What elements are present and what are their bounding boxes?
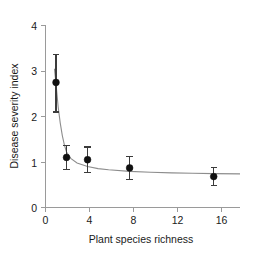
data-point-marker xyxy=(84,156,91,163)
x-tick-label-12: 12 xyxy=(172,214,184,226)
y-tick-label-4: 4 xyxy=(31,20,37,32)
data-point-marker xyxy=(53,79,60,86)
y-tick-label-0: 0 xyxy=(31,202,37,214)
data-point-group xyxy=(53,54,60,112)
x-axis-tick-labels: 0 4 8 12 16 xyxy=(43,214,228,226)
x-tick-label-8: 8 xyxy=(131,214,137,226)
data-point-group xyxy=(63,145,70,170)
x-axis-ticks xyxy=(46,208,222,213)
x-tick-label-16: 16 xyxy=(216,214,228,226)
y-axis-title: Disease severity index xyxy=(8,63,20,169)
y-tick-label-1: 1 xyxy=(31,157,37,169)
chart-figure: 0 1 2 3 4 0 4 8 12 16 Plant species rich… xyxy=(0,0,256,263)
x-tick-label-0: 0 xyxy=(43,214,49,226)
data-point-marker xyxy=(63,154,70,161)
y-tick-label-3: 3 xyxy=(31,65,37,77)
scatter-plot: 0 1 2 3 4 0 4 8 12 16 Plant species rich… xyxy=(0,0,256,263)
y-tick-label-2: 2 xyxy=(31,111,37,123)
data-point-marker xyxy=(126,165,133,172)
data-point-group xyxy=(126,157,133,180)
data-point-group xyxy=(210,167,217,185)
y-axis-ticks xyxy=(41,26,46,208)
data-points-layer xyxy=(53,54,218,185)
data-point-marker xyxy=(210,173,217,180)
x-tick-label-4: 4 xyxy=(87,214,93,226)
fitted-decay-curve xyxy=(54,69,240,174)
y-axis-tick-labels: 0 1 2 3 4 xyxy=(31,20,37,214)
data-point-group xyxy=(84,147,91,172)
x-axis-title: Plant species richness xyxy=(89,233,193,245)
